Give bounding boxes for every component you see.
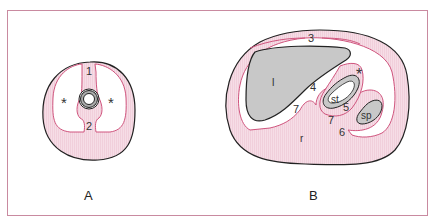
panel-b-label-6: 6 <box>339 126 345 138</box>
diagram-canvas: 1 2 * * 3 l 4 st 5 sp 7 7 6 r * <box>0 0 434 224</box>
panel-b-label-liver: l <box>272 76 274 88</box>
panel-b-asterisk: * <box>356 66 362 83</box>
panel-a-section: 1 2 * * <box>43 62 135 160</box>
panel-b-label-4: 4 <box>310 81 316 93</box>
panel-b-label-7b: 7 <box>328 114 334 126</box>
panel-a-asterisk-right: * <box>108 94 114 111</box>
panel-b-label-3: 3 <box>308 32 314 44</box>
panel-a-label: A <box>84 188 93 203</box>
panel-b-label-spleen: sp <box>361 110 372 121</box>
panel-b-section: 3 l 4 st 5 sp 7 7 6 r * <box>226 30 409 165</box>
panel-a-asterisk-left: * <box>61 94 67 111</box>
panel-a-label-1: 1 <box>86 65 92 77</box>
panel-b-label-7a: 7 <box>293 103 299 115</box>
panel-b-label-5: 5 <box>343 101 349 113</box>
panel-b-label-stomach: st <box>331 94 339 105</box>
panel-a-tube-lumen <box>84 94 95 105</box>
panel-a-label-2: 2 <box>86 120 92 132</box>
panel-b-label: B <box>309 188 318 203</box>
